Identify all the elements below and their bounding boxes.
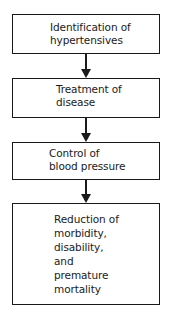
step-4-line-3: disability, [54,241,103,254]
step-4-line-5: premature [54,269,108,282]
arrow-3-head-icon [81,194,91,203]
arrow-3-shaft [85,180,87,195]
step-1-line-2: hypertensives [50,34,123,47]
step-4-line-1: Reduction of [54,213,119,226]
step-1-line-1: Identification of [50,21,131,34]
step-4-line-6: mortality [54,283,101,296]
arrow-1-shaft [85,54,87,70]
arrow-2-head-icon [81,133,91,142]
step-4-line-4: and [54,255,73,268]
arrow-2-shaft [85,118,87,134]
step-3-line-1: Control of [49,147,99,160]
step-3-line-2: blood pressure [49,160,125,173]
step-2-line-2: disease [56,96,95,109]
step-4-line-2: morbidity, [54,227,107,240]
arrow-1-head-icon [81,69,91,78]
step-2-line-1: Treatment of [56,83,122,96]
